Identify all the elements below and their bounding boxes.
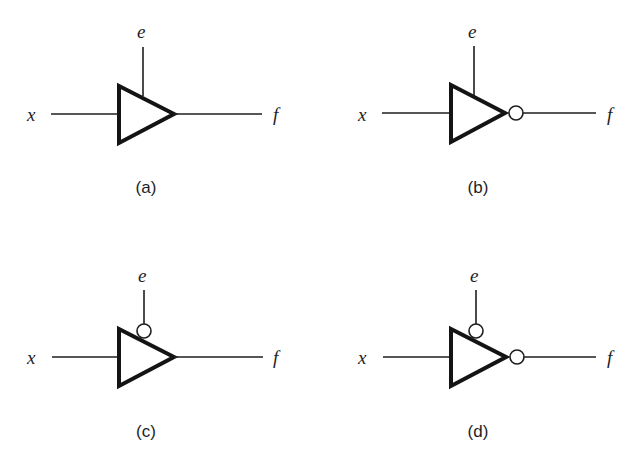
enable-label-e: e [137,21,145,42]
tri-state-buffer-diagram: x e f (a) x e f (b) x e f (c) x e [0,0,643,473]
buffer-triangle-icon [119,86,174,143]
panel-d: x e f (d) [357,265,615,441]
caption-d: (d) [468,422,489,441]
output-label-f: f [607,104,615,125]
caption-b: (b) [468,178,489,197]
caption-a: (a) [136,178,157,197]
output-inversion-bubble-icon [509,106,523,120]
enable-label-e: e [138,265,146,286]
input-label-x: x [357,347,367,368]
input-label-x: x [357,104,367,125]
output-label-f: f [273,104,281,125]
enable-inversion-bubble-icon [469,324,483,338]
output-label-f: f [607,347,615,368]
panel-c: x e f (c) [26,265,281,441]
output-inversion-bubble-icon [510,350,524,364]
enable-label-e: e [470,265,478,286]
panel-a: x e f (a) [26,21,281,197]
inverter-triangle-icon [451,85,505,142]
enable-inversion-bubble-icon [137,324,151,338]
input-label-x: x [26,347,36,368]
panel-b: x e f (b) [357,21,615,197]
caption-c: (c) [136,422,156,441]
output-label-f: f [273,347,281,368]
input-label-x: x [26,104,36,125]
enable-label-e: e [468,21,476,42]
